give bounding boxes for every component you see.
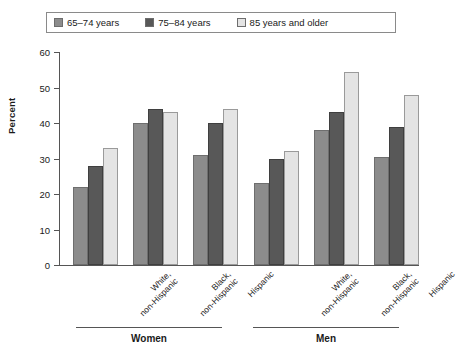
- legend-label: 75–84 years: [158, 17, 210, 28]
- legend-swatch-icon: [54, 18, 63, 27]
- group-label-men: Men: [253, 333, 399, 344]
- y-axis-tick-label: 60: [39, 47, 50, 58]
- bar: [148, 109, 163, 265]
- legend-item-65-74: 65–74 years: [54, 17, 119, 28]
- y-axis-tick: 0: [54, 265, 59, 266]
- y-axis-tick-label: 20: [39, 189, 50, 200]
- bar: [404, 95, 419, 265]
- y-axis-tick-label: 10: [39, 224, 50, 235]
- y-axis-title: Percent: [6, 98, 17, 134]
- x-axis-line: [59, 265, 419, 266]
- group-label-women: Women: [76, 333, 222, 344]
- bar: [73, 187, 88, 265]
- bar: [284, 151, 299, 265]
- bar: [314, 130, 329, 265]
- x-axis-label: Hispanic: [245, 269, 275, 299]
- bar: [88, 166, 103, 265]
- bar: [103, 148, 118, 265]
- bar: [133, 123, 148, 265]
- x-axis-label: White,non-Hispanic: [311, 269, 360, 318]
- bar: [269, 159, 284, 266]
- y-axis-tick-label: 30: [39, 153, 50, 164]
- bar: [374, 157, 389, 265]
- x-axis-label: Hispanic: [426, 269, 456, 299]
- x-axis-label: Black,non-Hispanic: [371, 269, 420, 318]
- legend-label: 65–74 years: [67, 17, 119, 28]
- legend-swatch-icon: [237, 18, 246, 27]
- bar: [344, 72, 359, 265]
- bars-layer: [60, 52, 419, 265]
- y-axis-tick-label: 0: [45, 260, 50, 271]
- legend-item-75-84: 75–84 years: [145, 17, 210, 28]
- y-axis-tick: 40: [54, 123, 59, 124]
- bar: [254, 183, 269, 265]
- y-axis-tick: 30: [54, 159, 59, 160]
- bar: [329, 112, 344, 265]
- bar: [163, 112, 178, 265]
- bar: [389, 127, 404, 265]
- bar: [208, 123, 223, 265]
- bar: [223, 109, 238, 265]
- y-axis-tick: 60: [54, 52, 59, 53]
- legend-item-85-and-older: 85 years and older: [237, 17, 329, 28]
- x-axis-label-line: Hispanic: [426, 269, 456, 299]
- x-axis-label-line: Hispanic: [245, 269, 275, 299]
- plot-area: 0102030405060: [59, 52, 419, 265]
- y-axis-tick-label: 40: [39, 118, 50, 129]
- legend-label: 85 years and older: [250, 17, 329, 28]
- y-axis-tick: 10: [54, 230, 59, 231]
- chart-legend: 65–74 years 75–84 years 85 years and old…: [46, 12, 396, 33]
- x-axis-label: White,non-Hispanic: [130, 269, 179, 318]
- group-rule-men: [253, 327, 399, 328]
- y-axis-tick: 20: [54, 194, 59, 195]
- x-axis-label: Black,non-Hispanic: [190, 269, 239, 318]
- y-axis-tick: 50: [54, 88, 59, 89]
- bar: [193, 155, 208, 265]
- y-axis-tick-label: 50: [39, 82, 50, 93]
- legend-swatch-icon: [145, 18, 154, 27]
- group-rule-women: [76, 327, 222, 328]
